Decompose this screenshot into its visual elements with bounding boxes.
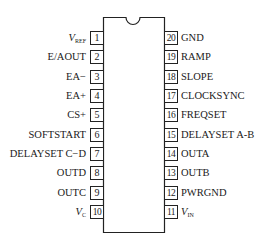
pin-10-label: VC bbox=[76, 205, 86, 222]
pin-9-box: 9 bbox=[90, 186, 104, 200]
pin-2-label: E/AOUT bbox=[48, 50, 87, 63]
pin-11-label: VIN bbox=[181, 205, 194, 222]
chip-body bbox=[104, 18, 165, 233]
pin-19-box: 19 bbox=[164, 50, 178, 64]
pin-11-label-sub: IN bbox=[187, 212, 193, 218]
pin-16-box: 16 bbox=[164, 108, 178, 122]
pin-5-label: CS+ bbox=[67, 108, 86, 121]
pin-15-box: 15 bbox=[164, 128, 178, 142]
pin-12-label: PWRGND bbox=[181, 186, 227, 199]
pin-3-box: 3 bbox=[90, 70, 104, 84]
pin-10-label-sub: C bbox=[82, 212, 86, 218]
pin-8-box: 8 bbox=[90, 166, 104, 180]
pin-14-label: OUTA bbox=[181, 147, 209, 160]
pin-9-label: OUTC bbox=[57, 186, 86, 199]
pin-1-label: VREF bbox=[69, 31, 86, 48]
pin-1-box: 1 bbox=[90, 31, 104, 45]
pin-14-box: 14 bbox=[164, 147, 178, 161]
pin-7-box: 7 bbox=[90, 147, 104, 161]
pin-20-box: 20 bbox=[164, 31, 178, 45]
pin-12-box: 12 bbox=[164, 186, 178, 200]
pin-10-box: 10 bbox=[90, 205, 104, 219]
pin-2-box: 2 bbox=[90, 50, 104, 64]
pin-5-box: 5 bbox=[90, 108, 104, 122]
pin-17-label: CLOCKSYNC bbox=[181, 89, 245, 102]
pin-13-box: 13 bbox=[164, 166, 178, 180]
pin-6-box: 6 bbox=[90, 128, 104, 142]
pin-1-label-sub: REF bbox=[75, 38, 86, 44]
pin-17-box: 17 bbox=[164, 89, 178, 103]
pin-11-box: 11 bbox=[164, 205, 178, 219]
pin-4-label: EA+ bbox=[66, 89, 86, 102]
pin-18-label: SLOPE bbox=[181, 70, 213, 83]
pin-13-label: OUTB bbox=[181, 166, 210, 179]
ic-pinout-diagram: 1 VREF 2 E/AOUT 3 EA− 4 EA+ 5 CS+ 6 SOFT… bbox=[0, 0, 266, 247]
pin-3-label: EA− bbox=[66, 70, 86, 83]
ic-body-outline bbox=[0, 0, 266, 247]
pin-15-label: DELAYSET A-B bbox=[181, 128, 254, 141]
pin-16-label: FREQSET bbox=[181, 108, 227, 121]
pin-4-box: 4 bbox=[90, 89, 104, 103]
pin-6-label: SOFTSTART bbox=[29, 128, 86, 141]
pin-7-label: DELAYSET C−D bbox=[10, 147, 86, 160]
pin-18-box: 18 bbox=[164, 70, 178, 84]
pin-19-label: RAMP bbox=[181, 50, 211, 63]
pin-8-label: OUTD bbox=[57, 166, 86, 179]
pin-20-label: GND bbox=[181, 31, 204, 44]
